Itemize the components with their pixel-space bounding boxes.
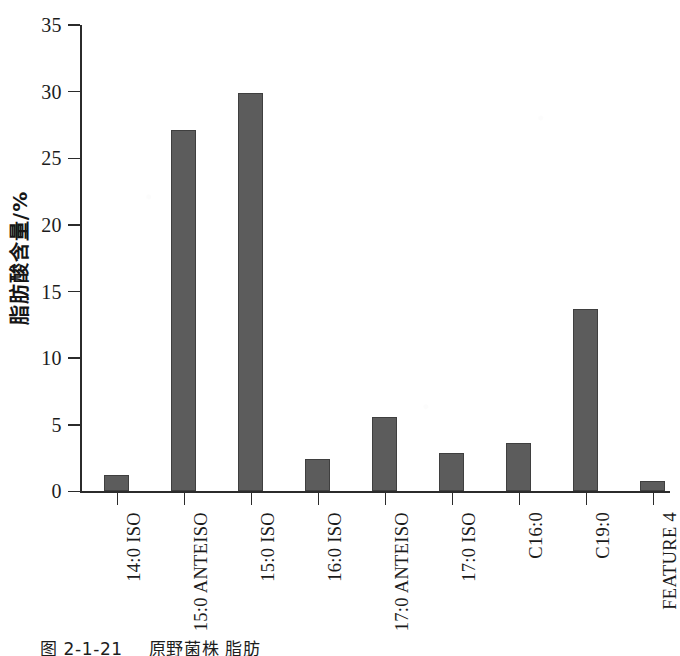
x-axis-tick <box>452 492 454 505</box>
y-axis-tick <box>68 424 80 426</box>
x-axis-tick-label: C19:0 <box>594 512 613 559</box>
x-axis-tick <box>519 492 521 505</box>
x-axis-line <box>80 491 670 493</box>
figure-caption-text: 原野菌株 脂肪 <box>149 640 261 656</box>
x-axis-tick-label: 14:0 ISO <box>125 512 144 582</box>
x-axis-tick <box>385 492 387 505</box>
figure-number: 图 2-1-21 <box>40 640 123 656</box>
y-axis-line <box>80 25 82 492</box>
bar <box>506 443 531 491</box>
bar <box>372 417 397 492</box>
x-axis-tick <box>586 492 588 505</box>
y-axis-tick <box>68 24 80 26</box>
bar <box>640 481 665 492</box>
y-axis-tick <box>68 291 80 293</box>
y-axis-tick <box>68 491 80 493</box>
x-axis-tick <box>251 492 253 505</box>
y-axis-tick <box>68 224 80 226</box>
x-axis-tick-label: C16:0 <box>527 512 546 559</box>
bar <box>238 93 263 491</box>
y-axis-tick-label: 15 <box>0 282 62 302</box>
bar <box>439 453 464 492</box>
y-axis-tick <box>68 357 80 359</box>
bar <box>305 459 330 491</box>
x-axis-tick-label: 16:0 ISO <box>326 512 345 582</box>
y-axis-tick-label: 30 <box>0 82 62 102</box>
y-axis-tick-label: 0 <box>0 481 62 501</box>
bar <box>104 475 129 491</box>
y-axis-tick <box>68 91 80 93</box>
y-axis-tick <box>68 158 80 160</box>
y-axis-tick-label: 5 <box>0 415 62 435</box>
y-axis-tick-label: 25 <box>0 148 62 168</box>
y-axis-tick-label: 10 <box>0 348 62 368</box>
x-axis-tick <box>653 492 655 505</box>
y-axis-title-text: 脂肪酸含量/% <box>8 191 32 325</box>
x-axis-tick-label: 17:0 ISO <box>460 512 479 582</box>
y-axis-tick-label: 35 <box>0 15 62 35</box>
x-axis-tick <box>318 492 320 505</box>
bar <box>573 309 598 492</box>
bar <box>171 130 196 491</box>
x-axis-tick <box>184 492 186 505</box>
x-axis-tick-label: 15:0 ISO <box>259 512 278 582</box>
x-axis-tick <box>117 492 119 505</box>
x-axis-tick-label: FEATURE 4 <box>661 512 680 610</box>
y-axis-title: 脂肪酸含量/% <box>4 191 33 325</box>
figure-caption: 图 2-1-21原野菌株 脂肪 <box>40 640 660 656</box>
y-axis-tick-label: 20 <box>0 215 62 235</box>
x-axis-tick-label: 17:0 ANTEISO <box>393 512 412 631</box>
x-axis-tick-label: 15:0 ANTEISO <box>192 512 211 631</box>
